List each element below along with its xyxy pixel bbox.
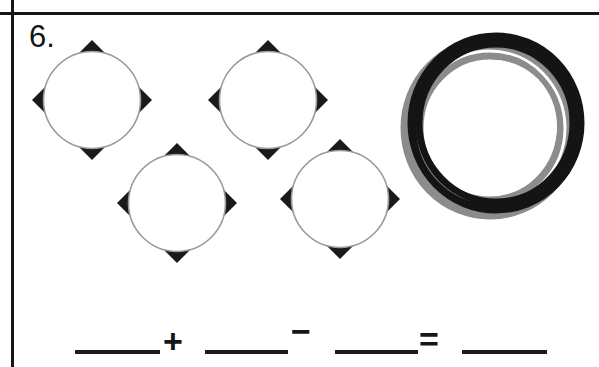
ring-icon bbox=[400, 30, 588, 222]
diamond-circle-shape-4 bbox=[278, 137, 402, 261]
worksheet-page: 6. bbox=[0, 0, 599, 367]
answer-blank-2[interactable] bbox=[205, 350, 288, 354]
answer-blank-3[interactable] bbox=[335, 350, 418, 354]
shape-group bbox=[0, 0, 599, 290]
answer-blank-1[interactable] bbox=[75, 350, 160, 354]
minus-operator: − bbox=[291, 314, 311, 348]
diamond-circle-icon bbox=[115, 141, 239, 265]
ring-shape-5 bbox=[400, 30, 588, 222]
equation-row: + − = bbox=[0, 306, 599, 362]
answer-blank-4[interactable] bbox=[462, 350, 547, 354]
plus-operator: + bbox=[163, 324, 183, 358]
diamond-circle-shape-3 bbox=[115, 141, 239, 265]
equals-operator: = bbox=[419, 322, 439, 356]
diamond-circle-icon bbox=[278, 137, 402, 261]
